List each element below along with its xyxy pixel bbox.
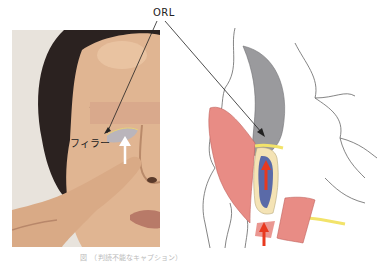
anatomy-svg xyxy=(195,28,377,248)
censor-bar xyxy=(90,102,160,124)
lower-muscle xyxy=(277,197,315,243)
orl-label: ORL xyxy=(153,7,175,18)
figure-caption: 図 （判読不能なキャプション） xyxy=(80,252,320,262)
anatomy-diagram xyxy=(195,28,377,248)
orbicularis-muscle xyxy=(209,107,255,223)
filler-label: フィラー xyxy=(70,135,110,150)
